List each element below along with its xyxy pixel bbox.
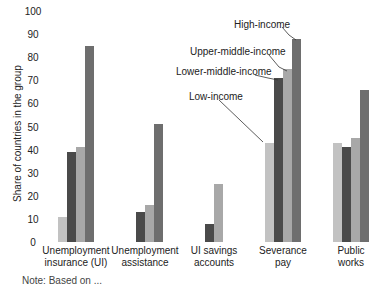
bar-upper-middle-income xyxy=(351,138,360,242)
bar-low-income xyxy=(265,143,274,242)
annotation-lower-middle-income: Lower-middle-income xyxy=(176,66,272,77)
y-tick-label: 20 xyxy=(24,190,42,201)
x-category-label: Unemploymentinsurance (UI) xyxy=(36,245,116,269)
y-tick-label: 40 xyxy=(24,144,42,155)
chart-note: Note: Based on ... xyxy=(22,275,102,286)
y-tick-label: 30 xyxy=(24,167,42,178)
bar-lower-middle-income xyxy=(342,147,351,242)
y-tick-label: 100 xyxy=(24,6,42,17)
bar-upper-middle-income xyxy=(214,184,223,242)
bar-lower-middle-income xyxy=(67,152,76,242)
bar-upper-middle-income xyxy=(76,147,85,242)
y-tick-label: 80 xyxy=(24,52,42,63)
y-tick-label: 60 xyxy=(24,98,42,109)
y-axis-label: Share of countries in the group xyxy=(12,49,23,219)
y-tick-label: 50 xyxy=(24,121,42,132)
bar-high-income xyxy=(292,39,301,242)
annotation-high-income: High-income xyxy=(234,19,290,30)
bar-lower-middle-income xyxy=(274,78,283,242)
x-category-label: Unemploymentassistance xyxy=(105,245,185,269)
bar-low-income xyxy=(333,143,342,242)
y-tick-label: 10 xyxy=(24,213,42,224)
annotation-upper-middle-income: Upper-middle-income xyxy=(190,46,286,57)
y-tick-label: 70 xyxy=(24,75,42,86)
bar-high-income xyxy=(85,46,94,242)
bar-lower-middle-income xyxy=(136,212,145,242)
y-tick-label: 90 xyxy=(24,29,42,40)
annotation-low-income: Low-income xyxy=(189,91,243,102)
bar-low-income xyxy=(58,217,67,242)
bar-high-income xyxy=(360,90,369,242)
bar-upper-middle-income xyxy=(283,69,292,242)
x-category-label: Publicworks xyxy=(311,245,377,269)
bar-upper-middle-income xyxy=(145,205,154,242)
bar-high-income xyxy=(154,124,163,242)
bar-lower-middle-income xyxy=(205,224,214,242)
x-category-label: UI savingsaccounts xyxy=(174,245,254,269)
